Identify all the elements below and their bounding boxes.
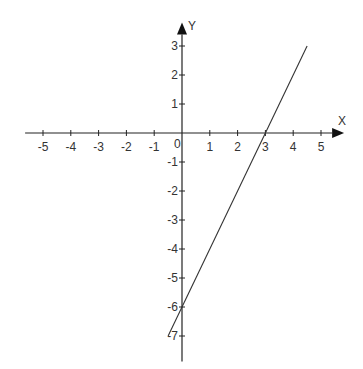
y-tick-label: -3 [167, 213, 178, 227]
origin-label: 0 [174, 137, 181, 151]
x-tick-label: -3 [93, 140, 104, 154]
x-tick-label: -1 [149, 140, 160, 154]
axes: X Y 0 [25, 19, 346, 361]
series-layer [168, 46, 307, 336]
x-axis-label: X [338, 114, 346, 128]
x-axis-arrow-icon [332, 128, 344, 138]
y-tick-label: -4 [167, 242, 178, 256]
x-tick-label: -4 [65, 140, 76, 154]
y-tick-label: -2 [167, 184, 178, 198]
x-tick-label: 1 [206, 140, 213, 154]
y-tick-label: 1 [171, 97, 178, 111]
x-tick-label: 3 [262, 140, 269, 154]
coordinate-plot: X Y 0 -5-4-3-2-112345 -7-6-5-4-3-2-1123 [0, 0, 363, 369]
y-axis-arrow-icon [177, 22, 187, 34]
y-tick-label: -6 [167, 300, 178, 314]
series-line [168, 46, 307, 336]
y-tick-label: -1 [167, 155, 178, 169]
x-ticks: -5-4-3-2-112345 [38, 130, 325, 154]
x-tick-label: -2 [121, 140, 132, 154]
x-tick-label: -5 [38, 140, 49, 154]
x-tick-label: 4 [290, 140, 297, 154]
y-tick-label: -5 [167, 271, 178, 285]
y-tick-label: -7 [167, 329, 178, 343]
x-tick-label: 5 [318, 140, 325, 154]
y-axis-label: Y [188, 19, 196, 33]
y-tick-label: 3 [171, 39, 178, 53]
y-tick-label: 2 [171, 68, 178, 82]
x-tick-label: 2 [234, 140, 241, 154]
